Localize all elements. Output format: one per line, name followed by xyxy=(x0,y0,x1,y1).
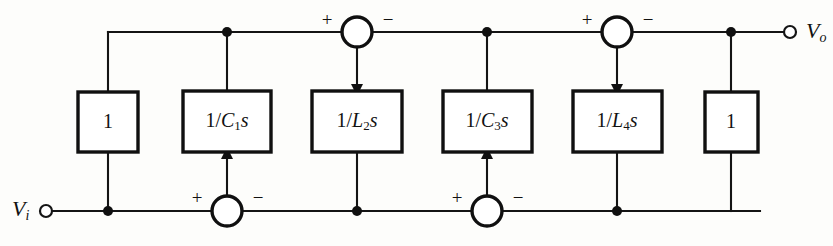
arrowhead-group xyxy=(221,84,623,159)
sum-bottom-left-plus-sign: + xyxy=(192,187,203,208)
block-1-right[interactable]: 1 xyxy=(705,92,758,152)
block-c1s[interactable]: 1/C1s xyxy=(183,91,271,152)
dot-top-c3s xyxy=(482,27,492,37)
block-diagram-canvas: 11/C1s1/L2s1/C3s1/L4s1 +−+−+−+− ViVo xyxy=(0,0,833,246)
block-l4s[interactable]: 1/L4s xyxy=(573,91,662,152)
sum-top-left[interactable]: +− xyxy=(322,9,394,47)
dot-bottom-l2s xyxy=(352,206,362,216)
sum-top-right-plus-sign: + xyxy=(582,9,593,30)
sum-bottom-right-minus-sign: − xyxy=(513,187,524,208)
block-c1s-label: 1/C1s xyxy=(205,109,248,133)
block-c3s-label: 1/C3s xyxy=(465,109,508,133)
block-1-right-label: 1 xyxy=(726,110,736,132)
sum-top-left-circle xyxy=(342,17,372,47)
block-l4s-label: 1/L4s xyxy=(597,109,638,133)
sum-top-left-minus-sign: − xyxy=(383,9,394,30)
output-port-terminal-icon xyxy=(784,26,796,38)
dot-top-output xyxy=(726,27,736,37)
sum-bottom-left-minus-sign: − xyxy=(253,187,264,208)
sum-bottom-left-circle xyxy=(212,196,242,226)
dot-top-c1s xyxy=(222,27,232,37)
block-1-left[interactable]: 1 xyxy=(78,92,138,152)
block-c3s[interactable]: 1/C3s xyxy=(443,91,532,152)
block-l2s[interactable]: 1/L2s xyxy=(312,91,402,152)
dot-bottom-l4s xyxy=(612,206,622,216)
block-l2s-label: 1/L2s xyxy=(337,109,378,133)
input-port[interactable]: Vi xyxy=(12,196,52,223)
sum-top-left-plus-sign: + xyxy=(322,9,333,30)
sum-top-right-minus-sign: − xyxy=(643,9,654,30)
block-diagram-svg: 11/C1s1/L2s1/C3s1/L4s1 +−+−+−+− ViVo xyxy=(0,0,833,246)
wire-group xyxy=(46,32,790,211)
input-port-terminal-icon xyxy=(40,205,52,217)
output-port[interactable]: Vo xyxy=(784,18,826,45)
dot-bottom-input xyxy=(103,206,113,216)
sum-bottom-right-plus-sign: + xyxy=(452,187,463,208)
sum-bottom-right-circle xyxy=(472,196,502,226)
output-port-label: Vo xyxy=(806,18,826,45)
input-port-label: Vi xyxy=(12,196,29,223)
sum-top-right[interactable]: +− xyxy=(582,9,654,47)
sum-top-right-circle xyxy=(602,17,632,47)
block-1-left-label: 1 xyxy=(103,110,113,132)
transfer-function-block-group: 11/C1s1/L2s1/C3s1/L4s1 xyxy=(78,91,758,152)
